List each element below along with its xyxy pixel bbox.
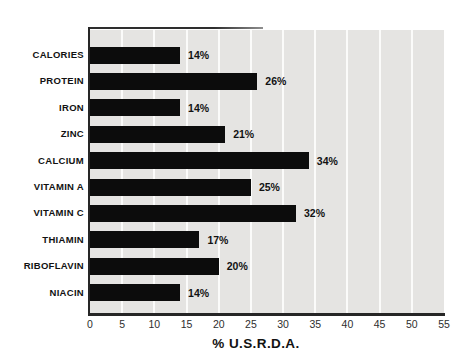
plot-top-border [88,27,263,30]
bar [90,73,257,90]
value-label: 25% [259,180,280,194]
category-label: VITAMIN C [0,206,84,220]
value-label: 34% [317,154,338,168]
category-label: IRON [0,101,84,115]
gridline-30 [282,30,284,313]
bar [90,152,309,169]
gridline-35 [314,30,316,313]
bar [90,179,251,196]
gridline-45 [379,30,381,313]
x-tick-label: 0 [75,318,105,330]
x-axis-line [88,313,445,316]
category-label: THIAMIN [0,233,84,247]
bar [90,47,180,64]
category-label: VITAMIN A [0,180,84,194]
category-label: CALORIES [0,48,84,62]
x-tick-label: 55 [429,318,459,330]
gridline-40 [346,30,348,313]
bar [90,231,199,248]
bar [90,126,225,143]
usrda-nutrition-bar-chart: CALORIES14%PROTEIN26%IRON14%ZINC21%CALCI… [0,0,468,354]
x-tick-label: 5 [107,318,137,330]
x-tick-label: 40 [332,318,362,330]
x-tick-label: 35 [300,318,330,330]
x-tick-label: 15 [172,318,202,330]
bar [90,99,180,116]
value-label: 14% [188,286,209,300]
value-label: 21% [233,127,254,141]
value-label: 32% [304,206,325,220]
category-label: NIACIN [0,286,84,300]
x-tick-label: 50 [397,318,427,330]
value-label: 26% [265,74,286,88]
value-label: 20% [227,259,248,273]
bar [90,205,296,222]
value-label: 14% [188,101,209,115]
bar [90,258,219,275]
category-label: RIBOFLAVIN [0,259,84,273]
x-tick-label: 30 [268,318,298,330]
x-tick-label: 20 [204,318,234,330]
x-tick-label: 25 [236,318,266,330]
category-label: PROTEIN [0,74,84,88]
x-tick-label: 10 [139,318,169,330]
category-label: ZINC [0,127,84,141]
category-label: CALCIUM [0,154,84,168]
value-label: 17% [207,233,228,247]
value-label: 14% [188,48,209,62]
gridline-50 [411,30,413,313]
x-axis-title: % U.S.R.D.A. [186,336,326,351]
bar [90,284,180,301]
x-tick-label: 45 [365,318,395,330]
